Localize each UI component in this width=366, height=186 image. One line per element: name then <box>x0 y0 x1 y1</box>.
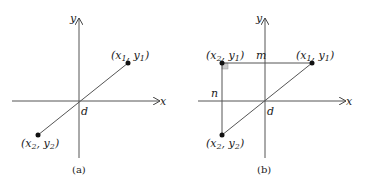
y-axis-label: y <box>255 12 263 25</box>
diagram-canvas: x y d (x1, y1) (x2, y2) (a) x y d m n (x… <box>0 0 366 186</box>
point-2-label: (x2, y2) <box>21 137 59 151</box>
point-2-label: (x2, y2) <box>206 137 244 151</box>
segment-d <box>222 63 312 135</box>
origin-label: d <box>81 105 88 118</box>
segment-d <box>38 63 128 135</box>
caption-a: (a) <box>72 164 86 175</box>
n-label: n <box>211 87 218 100</box>
caption-b: (b) <box>257 164 271 175</box>
point-1-label: (x1, y1) <box>111 49 149 63</box>
origin-label: d <box>267 105 274 118</box>
m-label: m <box>256 49 266 62</box>
y-axis-label: y <box>69 12 77 25</box>
panel-a: x y d (x1, y1) (x2, y2) (a) <box>12 12 167 175</box>
point-1-label: (x1, y1) <box>296 49 334 63</box>
panel-b: x y d m n (x1, y1) (x2, y1) (x2, y2) (b) <box>198 12 353 175</box>
x-axis-label: x <box>160 95 167 108</box>
x-axis-label: x <box>346 95 353 108</box>
corner-label: (x2, y1) <box>206 49 244 63</box>
